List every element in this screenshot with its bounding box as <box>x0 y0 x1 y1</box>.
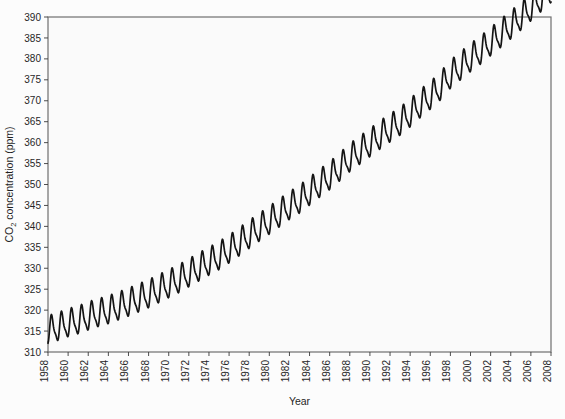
x-axis-title: Year <box>289 395 311 407</box>
x-tick-label: 1972 <box>180 360 191 383</box>
x-tick-label: 1992 <box>381 360 392 383</box>
y-tick-label: 345 <box>24 200 41 211</box>
x-tick-label: 2002 <box>482 360 493 383</box>
y-tick-label: 320 <box>24 305 41 316</box>
x-tick-label: 2006 <box>522 360 533 383</box>
x-tick-label: 1978 <box>240 360 251 383</box>
y-tick-label: 355 <box>24 158 41 169</box>
y-tick-label: 370 <box>24 95 41 106</box>
x-tick-label: 1964 <box>99 360 110 383</box>
y-tick-label: 325 <box>24 284 41 295</box>
x-tick-label: 1966 <box>119 360 130 383</box>
x-tick-label: 1994 <box>401 360 412 383</box>
y-tick-label: 330 <box>24 263 41 274</box>
y-tick-label: 315 <box>24 326 41 337</box>
x-tick-label: 2004 <box>502 360 513 383</box>
x-tick-label: 1960 <box>59 360 70 383</box>
y-tick-label: 360 <box>24 137 41 148</box>
x-tick-label: 1976 <box>220 360 231 383</box>
x-tick-label: 1982 <box>280 360 291 383</box>
x-tick-label: 1996 <box>421 360 432 383</box>
y-tick-label: 385 <box>24 33 41 44</box>
co2-keeling-curve-chart: 3103153203253303353403453503553603653703… <box>0 0 565 419</box>
x-tick-label: 1986 <box>321 360 332 383</box>
x-tick-label: 2000 <box>462 360 473 383</box>
y-tick-label: 350 <box>24 179 41 190</box>
x-tick-label: 1962 <box>79 360 90 383</box>
y-tick-label: 380 <box>24 53 41 64</box>
x-tick-label: 1958 <box>39 360 50 383</box>
y-tick-label: 340 <box>24 221 41 232</box>
x-tick-label: 1980 <box>260 360 271 383</box>
x-tick-label: 1974 <box>200 360 211 383</box>
y-tick-label: 365 <box>24 116 41 127</box>
x-tick-label: 2008 <box>542 360 553 383</box>
x-tick-label: 1998 <box>441 360 452 383</box>
x-tick-label: 1984 <box>301 360 312 383</box>
y-tick-label: 375 <box>24 74 41 85</box>
x-tick-label: 1988 <box>341 360 352 383</box>
y-tick-label: 310 <box>24 347 41 358</box>
x-tick-label: 1990 <box>361 360 372 383</box>
y-tick-label: 390 <box>24 12 41 23</box>
x-tick-label: 1970 <box>160 360 171 383</box>
chart-figure: 3103153203253303353403453503553603653703… <box>0 0 565 419</box>
x-tick-label: 1968 <box>140 360 151 383</box>
y-tick-label: 335 <box>24 242 41 253</box>
